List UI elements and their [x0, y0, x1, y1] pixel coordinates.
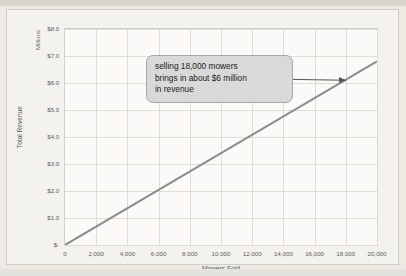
chart-frame: Total Revenue Millions Mowers Sold $-$1.…: [6, 9, 399, 265]
x-axis-tick-label: 14,000: [274, 250, 293, 257]
callout-line-1: selling 18,000 mowers: [155, 61, 285, 73]
x-axis-tick-label: 16,000: [305, 250, 324, 257]
gridline-vertical: [377, 29, 378, 245]
x-axis-tick-label: 0: [63, 250, 66, 257]
y-axis-tick-label: $1.0: [7, 214, 59, 221]
chart-screenshot: Total Revenue Millions Mowers Sold $-$1.…: [0, 0, 406, 276]
y-axis-tick-label: $6.0: [7, 79, 59, 86]
gridline-horizontal: [65, 245, 377, 246]
bottom-edge-strip: [0, 269, 406, 276]
y-axis-tick-label: $5.0: [7, 106, 59, 113]
y-axis-units-label: Millions: [35, 30, 41, 50]
top-edge-strip: [0, 0, 406, 6]
x-axis-tick-label: 8,000: [182, 250, 197, 257]
x-axis-tick-label: 2,000: [88, 250, 103, 257]
annotation-callout: selling 18,000 mowers brings in about $6…: [146, 55, 293, 103]
callout-line-3: in revenue: [155, 84, 285, 96]
y-axis-tick-label: $7.0: [7, 52, 59, 59]
x-axis-tick-label: 10,000: [212, 250, 231, 257]
x-axis-tick-label: 18,000: [336, 250, 355, 257]
y-axis-tick-label: $3.0: [7, 160, 59, 167]
x-axis-tick-label: 20,000: [368, 250, 387, 257]
x-axis-tick-label: 4,000: [120, 250, 135, 257]
y-axis-tick-label: $4.0: [7, 133, 59, 140]
y-axis-tick-label: $-: [7, 241, 59, 248]
x-axis-tick-label: 6,000: [151, 250, 166, 257]
y-axis-tick-label: $8.0: [7, 25, 59, 32]
callout-line-2: brings in about $6 million: [155, 73, 285, 85]
y-axis-tick-label: $2.0: [7, 187, 59, 194]
x-axis-tick-label: 12,000: [243, 250, 262, 257]
